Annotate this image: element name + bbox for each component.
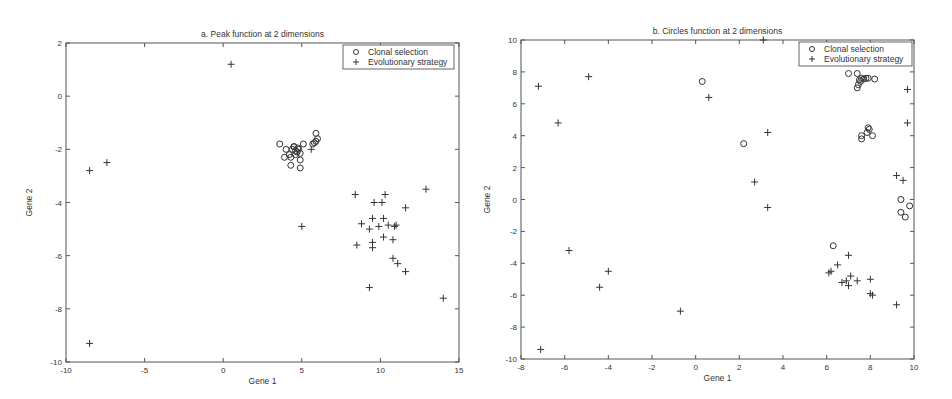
plus-marker [847,273,854,280]
plus-marker [760,37,767,44]
y-tick-label: 4 [513,132,518,141]
series-clonal-selection [699,70,912,248]
circle-marker [846,70,852,76]
legend-label-evolutionary-strategy: Evolutionary strategy [824,54,904,64]
y-tick-label: 8 [513,68,518,77]
y-tick-label: -10 [505,355,517,364]
legend-label-clonal-selection: Clonal selection [824,44,884,54]
plus-marker [535,83,542,90]
y-tick-label: 6 [513,100,518,109]
y-tick-label: -6 [510,291,518,300]
y-tick-label: -4 [510,259,518,268]
x-tick-label: 10 [910,363,919,372]
y-tick-label: 2 [513,164,518,173]
plot-frame [521,40,914,359]
plus-marker [555,119,562,126]
x-tick-label: -6 [561,363,569,372]
plus-marker [904,119,911,126]
y-tick-label: -2 [510,227,518,236]
circle-marker [902,214,908,220]
plus-marker [900,177,907,184]
y-axis-label: Gene 2 [482,185,492,213]
circle-marker [870,133,876,139]
x-tick-label: 0 [693,363,698,372]
circle-marker [830,243,836,249]
plus-marker [751,178,758,185]
plus-marker [677,308,684,315]
series-evolutionary-strategy [535,37,911,353]
plus-marker [705,94,712,101]
plus-marker [596,284,603,291]
chart-b-circles-function: b. Circles function at 2 dimensions-8-6-… [0,0,952,399]
circle-marker [898,197,904,203]
y-tick-label: -8 [510,323,518,332]
x-tick-label: -4 [605,363,613,372]
y-tick-label: 10 [508,36,517,45]
x-tick-label: 2 [737,363,742,372]
x-tick-label: 8 [868,363,873,372]
legend: Clonal selectionEvolutionary strategy [799,42,912,66]
circle-marker [699,78,705,84]
plus-marker [867,276,874,283]
plus-marker [537,346,544,353]
x-axis-label: Gene 1 [704,373,732,383]
plus-marker [585,73,592,80]
chart-b-canvas: b. Circles function at 2 dimensions-8-6-… [0,0,952,399]
x-tick-label: -2 [648,363,656,372]
x-tick-label: 6 [824,363,829,372]
chart-title: b. Circles function at 2 dimensions [653,26,782,36]
plus-marker [838,279,845,286]
plus-marker [605,268,612,275]
plus-marker [845,252,852,259]
circle-marker [741,141,747,147]
y-tick-label: 0 [513,196,518,205]
plus-marker [834,261,841,268]
plus-marker [566,247,573,254]
plus-marker [854,277,861,284]
plus-marker [764,129,771,136]
circle-marker [872,76,878,82]
plus-marker [893,301,900,308]
circle-marker [907,203,913,209]
plus-marker [764,204,771,211]
plus-marker [904,86,911,93]
x-tick-label: 4 [781,363,786,372]
x-tick-label: -8 [517,363,525,372]
plus-marker [893,172,900,179]
circle-marker [898,209,904,215]
circle-marker [854,70,860,76]
